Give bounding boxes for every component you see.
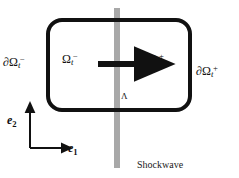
region-label-minus: Ωt− — [62, 52, 78, 67]
boundary-label-plus: ∂Ωt+ — [196, 64, 218, 79]
interface-label-lambda: Λ — [121, 92, 128, 101]
boundary-label-minus: ∂Ωt− — [3, 55, 25, 70]
shockwave-label: Shockwave — [137, 160, 183, 170]
figure-vector-graphics — [0, 0, 239, 178]
shockwave-control-volume-figure: ∂Ωt− ∂Ωt+ Ωt− Ωt+ Λ Shockwave e2 e1 — [0, 0, 239, 178]
region-label-plus: Ωt+ — [148, 52, 164, 67]
axis-label-e2: e2 — [7, 114, 17, 128]
axis-label-e1: e1 — [68, 142, 78, 156]
